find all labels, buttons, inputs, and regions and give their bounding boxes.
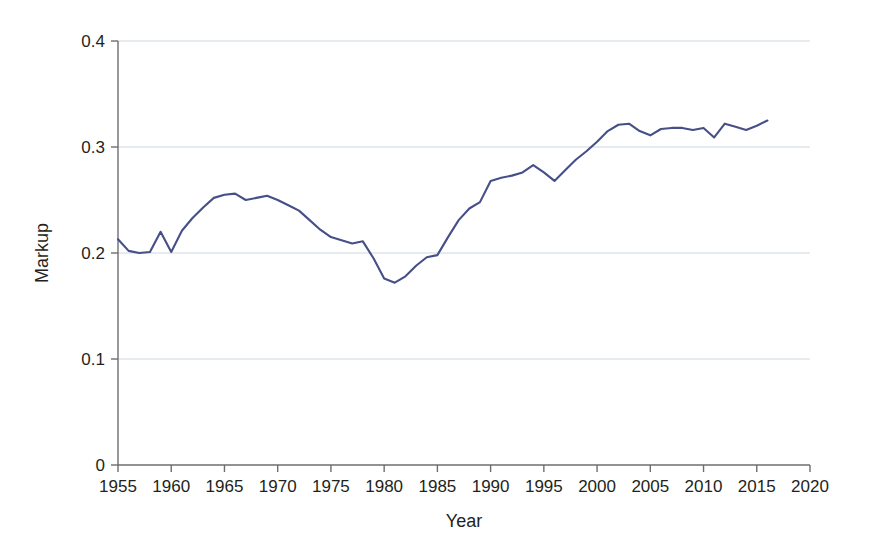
x-tick-label-3: 1970 bbox=[259, 477, 297, 496]
x-tick-label-1: 1960 bbox=[152, 477, 190, 496]
x-tick-label-6: 1985 bbox=[418, 477, 456, 496]
x-tick-label-4: 1975 bbox=[312, 477, 350, 496]
y-tick-label-4: 0.4 bbox=[81, 32, 105, 51]
x-tick-label-11: 2010 bbox=[685, 477, 723, 496]
x-tick-label-2: 1965 bbox=[206, 477, 244, 496]
x-tick-label-0: 1955 bbox=[99, 477, 137, 496]
x-tick-label-5: 1980 bbox=[365, 477, 403, 496]
y-axis-title: Markup bbox=[32, 223, 52, 283]
x-axis-title: Year bbox=[446, 511, 482, 531]
chart-canvas: 00.10.20.30.4 19551960196519701975198019… bbox=[0, 0, 870, 550]
x-tick-label-10: 2005 bbox=[631, 477, 669, 496]
x-tick-label-12: 2015 bbox=[738, 477, 776, 496]
x-tick-label-8: 1995 bbox=[525, 477, 563, 496]
y-tick-label-3: 0.3 bbox=[81, 138, 105, 157]
x-tick-label-7: 1990 bbox=[472, 477, 510, 496]
y-tick-label-1: 0.1 bbox=[81, 350, 105, 369]
x-tick-label-9: 2000 bbox=[578, 477, 616, 496]
markup-time-series-chart: 00.10.20.30.4 19551960196519701975198019… bbox=[0, 0, 870, 550]
y-tick-label-2: 0.2 bbox=[81, 244, 105, 263]
chart-background bbox=[0, 0, 870, 550]
x-tick-label-13: 2020 bbox=[791, 477, 829, 496]
y-tick-label-0: 0 bbox=[96, 456, 105, 475]
